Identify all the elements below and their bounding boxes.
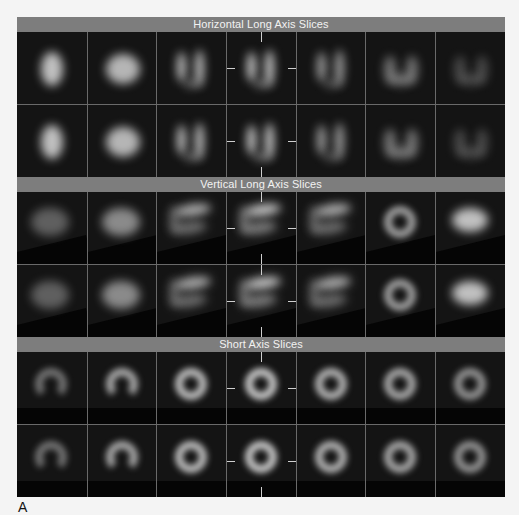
vla-slice: [156, 192, 226, 264]
uptake-region: [244, 202, 281, 219]
alignment-marker: [261, 327, 262, 337]
vla-slice: [226, 192, 296, 264]
hla-row: [17, 32, 505, 104]
uptake-region: [253, 153, 271, 161]
vla-grid: [17, 192, 505, 337]
uptake-region: [177, 125, 186, 155]
uptake-region: [323, 80, 341, 88]
uptake-region: [314, 275, 351, 292]
alignment-marker: [227, 228, 235, 229]
attenuation-cutoff: [436, 408, 505, 424]
ring-uptake: [35, 368, 67, 400]
vla-section: Vertical Long Axis Slices: [17, 177, 505, 337]
alignment-marker: [261, 352, 262, 362]
hla-section: Horizontal Long Axis Slices: [17, 17, 505, 177]
alignment-marker: [261, 487, 262, 497]
uptake-region: [239, 206, 249, 232]
vla-slice: [365, 192, 435, 264]
hla-slice: [156, 105, 226, 177]
uptake-region: [452, 281, 488, 305]
attenuation-cutoff: [366, 481, 435, 497]
vla-row: [17, 264, 505, 337]
uptake-region: [314, 202, 351, 219]
attenuation-cutoff: [87, 308, 157, 337]
hla-slice: [296, 32, 366, 104]
spect-slice-panel: Horizontal Long Axis Slices Vertical Lon…: [17, 17, 505, 497]
uptake-region: [317, 125, 326, 155]
uptake-region: [177, 52, 186, 82]
alignment-marker: [261, 32, 262, 42]
alignment-marker: [227, 141, 235, 142]
alignment-marker: [288, 68, 296, 69]
ring-uptake: [384, 441, 416, 473]
attenuation-cutoff: [227, 408, 296, 424]
uptake-region: [41, 52, 63, 86]
ring-uptake: [454, 368, 486, 400]
sa-slice: [17, 425, 87, 497]
hla-slice: [87, 32, 157, 104]
uptake-region: [460, 74, 482, 86]
hla-slice: [226, 105, 296, 177]
alignment-marker: [288, 388, 296, 389]
uptake-region: [247, 125, 256, 155]
attenuation-cutoff: [297, 481, 366, 497]
attenuation-cutoff: [297, 408, 366, 424]
uptake-region: [175, 275, 212, 292]
vla-header: Vertical Long Axis Slices: [17, 177, 505, 192]
attenuation-cutoff: [435, 308, 505, 337]
vla-slice: [87, 265, 157, 337]
sa-slice: [226, 352, 296, 424]
hla-slice: [365, 32, 435, 104]
sa-grid: [17, 352, 505, 497]
uptake-region: [175, 202, 212, 219]
hla-row: [17, 104, 505, 177]
alignment-marker: [227, 68, 235, 69]
alignment-marker: [227, 301, 235, 302]
alignment-marker: [288, 301, 296, 302]
ring-uptake: [384, 368, 416, 400]
alignment-marker: [288, 228, 296, 229]
vla-slice: [156, 265, 226, 337]
hla-slice: [17, 105, 87, 177]
hla-header: Horizontal Long Axis Slices: [17, 17, 505, 32]
ring-uptake: [384, 206, 416, 238]
hla-slice: [365, 105, 435, 177]
vla-slice: [435, 265, 505, 337]
sa-slice: [87, 352, 157, 424]
uptake-region: [390, 74, 412, 86]
uptake-region: [239, 279, 249, 305]
sa-section: Short Axis Slices: [17, 337, 505, 497]
vla-slice: [435, 192, 505, 264]
hla-slice: [87, 105, 157, 177]
uptake-region: [309, 206, 319, 232]
attenuation-cutoff: [17, 481, 87, 497]
attenuation-cutoff: [88, 408, 157, 424]
hla-grid: [17, 32, 505, 177]
vla-slice: [226, 265, 296, 337]
uptake-region: [244, 275, 281, 292]
uptake-region: [460, 147, 482, 159]
sa-slice: [365, 352, 435, 424]
uptake-region: [317, 52, 326, 82]
sa-slice: [156, 425, 226, 497]
alignment-marker: [288, 141, 296, 142]
uptake-region: [102, 281, 140, 309]
uptake-region: [452, 208, 488, 232]
ring-uptake: [315, 441, 347, 473]
uptake-region: [323, 153, 341, 161]
figure-label: A: [18, 499, 27, 515]
alignment-marker: [261, 254, 262, 264]
sa-slice: [296, 352, 366, 424]
vla-slice: [17, 265, 87, 337]
ring-uptake: [175, 441, 207, 473]
ring-uptake: [106, 441, 138, 473]
hla-slice: [226, 32, 296, 104]
uptake-region: [169, 279, 179, 305]
vla-slice: [87, 192, 157, 264]
uptake-region: [31, 208, 69, 236]
ring-uptake: [454, 441, 486, 473]
hla-slice: [17, 32, 87, 104]
ring-uptake: [106, 368, 138, 400]
sa-row: [17, 352, 505, 424]
sa-row: [17, 424, 505, 497]
